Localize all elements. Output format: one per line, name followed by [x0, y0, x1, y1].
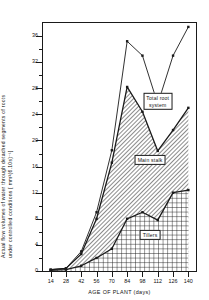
x-tick-label: 112 — [150, 279, 166, 284]
data-point — [80, 265, 82, 267]
data-point — [172, 191, 174, 193]
chart-svg — [43, 23, 196, 271]
chart-figure: Actual flow volumes of water through det… — [0, 0, 209, 300]
x-tick — [173, 272, 174, 277]
series-fills — [51, 87, 189, 271]
data-point — [65, 268, 67, 270]
x-tick — [142, 272, 143, 277]
data-point — [80, 250, 82, 252]
data-point — [141, 111, 143, 113]
y-tick-label: 16 — [24, 164, 38, 169]
annotation-total-root-system: Total root system — [143, 93, 172, 109]
x-tick-label: 98 — [134, 279, 150, 284]
data-point — [111, 248, 113, 250]
data-point — [141, 211, 143, 213]
x-tick — [158, 272, 159, 277]
data-point — [80, 253, 82, 255]
x-tick — [188, 272, 189, 277]
x-tick — [51, 272, 52, 277]
y-tick-label: 20 — [24, 138, 38, 143]
data-point — [141, 54, 143, 56]
x-tick-label: 140 — [180, 279, 196, 284]
data-point — [172, 129, 174, 131]
x-tick — [81, 272, 82, 277]
x-tick-label: 42 — [73, 279, 89, 284]
annotation-total-root-system-line2: system — [149, 101, 166, 107]
annotation-total-root-system-line1: Total root — [146, 95, 169, 101]
data-point — [187, 107, 189, 109]
data-point — [111, 161, 113, 163]
x-tick-label: 70 — [104, 279, 120, 284]
x-tick-label: 84 — [119, 279, 135, 284]
data-point — [187, 26, 189, 28]
y-tick-label: 12 — [24, 190, 38, 195]
x-tick-label: 14 — [43, 279, 59, 284]
annotation-tillers: Tillers — [140, 230, 161, 240]
y-tick-label: 8 — [24, 216, 38, 221]
x-axis-title: AGE OF PLANT (days) — [42, 289, 197, 295]
x-tick-label: 56 — [89, 279, 105, 284]
x-tick — [97, 272, 98, 277]
y-axis-title-line1: Actual flow volumes of water through det… — [0, 0, 7, 258]
x-tick-label: 126 — [165, 279, 181, 284]
y-tick-label: 28 — [24, 86, 38, 91]
data-point — [172, 54, 174, 56]
data-point — [95, 257, 97, 259]
plot-area: Total root system Main stalk Tillers — [42, 22, 197, 272]
data-point — [111, 149, 113, 151]
y-tick-label: 0 — [24, 268, 38, 273]
data-point — [49, 269, 51, 271]
data-point — [95, 218, 97, 220]
data-point — [157, 219, 159, 221]
data-point — [126, 40, 128, 42]
x-tick — [127, 272, 128, 277]
data-point — [126, 86, 128, 88]
y-tick-label: 24 — [24, 112, 38, 117]
y-tick-label: 36 — [24, 33, 38, 38]
annotation-main-stalk: Main stalk — [135, 155, 166, 165]
x-tick — [66, 272, 67, 277]
data-point — [187, 189, 189, 191]
y-axis-title: Actual flow volumes of water through det… — [0, 0, 22, 260]
x-tick-label: 28 — [58, 279, 74, 284]
data-point — [157, 150, 159, 152]
y-tick-label: 4 — [24, 242, 38, 247]
x-tick — [112, 272, 113, 277]
y-axis-title-line2: under controlled conditions [ mm³(6.10s)… — [7, 0, 14, 258]
y-tick-label: 32 — [24, 59, 38, 64]
data-point — [95, 211, 97, 213]
data-point — [126, 218, 128, 220]
